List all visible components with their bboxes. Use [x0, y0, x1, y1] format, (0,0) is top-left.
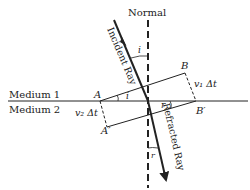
point-A-label: A — [93, 89, 101, 100]
angle-r-arc-bottom — [148, 148, 158, 149]
medium2-label: Medium 2 — [9, 104, 60, 115]
angle-i-arc-wave — [117, 95, 118, 101]
angle-i-arc-top — [131, 56, 148, 58]
point-B-prime-label: B′ — [195, 105, 206, 116]
point-B-label: B — [180, 60, 188, 71]
refraction-diagram: Normal Incident Ray Refracted Ray Medium… — [0, 0, 250, 190]
medium1-label: Medium 1 — [9, 89, 60, 100]
wavefront-A-prime-B-prime — [107, 101, 196, 127]
normal-label: Normal — [128, 7, 166, 18]
angle-i-wave-label: i — [126, 91, 129, 101]
angle-i-top-label: i — [138, 45, 141, 55]
v2-dt-label: v₂ Δt — [75, 107, 98, 118]
v1-dt-label: v₁ Δt — [194, 78, 217, 89]
point-A-prime-label: A′ — [100, 125, 111, 136]
angle-r-wave-label: r — [161, 100, 166, 110]
incident-ray-label: Incident Ray — [105, 25, 139, 86]
refracted-ray-label: Refracted Ray — [161, 102, 187, 172]
angle-r-bottom-label: r — [151, 151, 156, 160]
v2-dt-segment — [100, 101, 107, 127]
wavefront-AB — [100, 73, 185, 101]
